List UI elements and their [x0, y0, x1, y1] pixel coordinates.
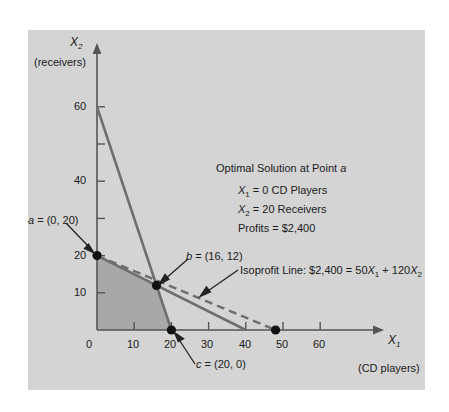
y-axis-title: X2 — [70, 36, 82, 53]
y-tick-label-60: 60 — [74, 100, 86, 113]
x-tick-label-20: 20 — [164, 338, 176, 351]
solution-x1-line: X1 = 0 CD Players — [238, 184, 346, 201]
y-axis-subscript: 2 — [78, 42, 82, 51]
y-tick-label-40: 40 — [74, 174, 86, 187]
x-axis-unit-label: (CD players) — [358, 362, 420, 375]
optimal-solution-point-letter: a — [340, 162, 346, 174]
isoprofit-line-label: Isoprofit Line: $2,400 = 50X1 + 120X2 — [240, 264, 422, 281]
x-tick-label-40: 40 — [239, 338, 251, 351]
isoprofit-label-mid: + 120 — [379, 264, 410, 276]
y-axis-arrow-icon — [93, 43, 102, 54]
optimal-solution-title-text: Optimal Solution at Point — [216, 162, 340, 174]
x-axis-symbol: X — [388, 333, 396, 347]
solution-profit-line: Profits = $2,400 — [238, 222, 346, 235]
y-axis-unit-label: (receivers) — [34, 56, 86, 69]
x-tick-label-10: 10 — [127, 338, 139, 351]
y-axis-symbol: X — [70, 35, 78, 49]
x-tick-label-60: 60 — [313, 338, 325, 351]
optimal-solution-title: Optimal Solution at Point a — [216, 162, 346, 175]
solution-x2-line: X2 = 20 Receivers — [238, 203, 346, 220]
optimal-solution-block: Optimal Solution at Point a X1 = 0 CD Pl… — [216, 162, 346, 237]
figure-panel: X2 (receivers) X1 (CD players) 60 40 20 … — [28, 30, 425, 390]
isoprofit-intercept-marker — [271, 325, 280, 334]
x-axis-arrow-icon — [373, 326, 384, 335]
y-tick-label-20: 20 — [74, 249, 86, 262]
x-tick-label-0: 0 — [86, 338, 92, 351]
x-tick-label-50: 50 — [276, 338, 288, 351]
y-tick-label-10: 10 — [74, 286, 86, 299]
point-c-label: c = (20, 0) — [196, 358, 246, 371]
solution-x2-value: = 20 Receivers — [250, 203, 327, 215]
solution-x1-value: = 0 CD Players — [250, 184, 327, 196]
x-axis-title: X1 — [388, 334, 400, 351]
x-tick-label-30: 30 — [201, 338, 213, 351]
point-b-label: b = (16, 12) — [186, 250, 243, 263]
x-axis-subscript: 1 — [396, 340, 400, 349]
point-a-label: a = (0, 20) — [28, 214, 78, 227]
isoprofit-label-prefix: Isoprofit Line: $2,400 = 50 — [240, 264, 368, 276]
